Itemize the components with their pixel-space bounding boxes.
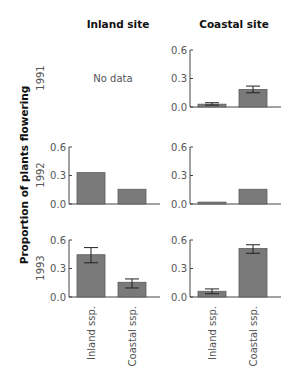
panels: 0.00.30.60.00.30.60.00.30.60.00.30.6Inla… [50, 45, 281, 367]
panel-coastal-1991: 0.00.30.6 [171, 45, 281, 113]
y-tick-label: 0.6 [50, 235, 66, 246]
y-tick-label: 0.3 [171, 263, 187, 274]
y-tick-label: 0.0 [171, 292, 187, 303]
row-label-1991: 1991 [35, 65, 46, 90]
bar [118, 189, 146, 204]
row-label-1993: 1993 [35, 255, 46, 280]
panel-inland-1993: 0.00.30.6Inland ssp.Coastal ssp. [50, 235, 160, 367]
bar [198, 202, 226, 204]
y-tick-label: 0.0 [171, 199, 187, 210]
y-tick-label: 0.0 [171, 102, 187, 113]
y-tick-label: 0.0 [50, 292, 66, 303]
category-label: Inland ssp. [207, 306, 218, 360]
panel-coastal-1992: 0.00.30.6 [171, 142, 281, 210]
y-tick-label: 0.3 [50, 170, 66, 181]
category-label: Coastal ssp. [248, 306, 259, 366]
y-tick-label: 0.0 [50, 199, 66, 210]
panel-coastal-1993: 0.00.30.6Inland ssp.Coastal ssp. [171, 235, 281, 367]
y-tick-label: 0.6 [171, 45, 187, 56]
panel-inland-1992: 0.00.30.6 [50, 142, 160, 210]
y-tick-label: 0.3 [171, 73, 187, 84]
y-tick-label: 0.6 [50, 142, 66, 153]
bar [239, 189, 267, 204]
flowering-proportion-chart: Inland site Coastal site Proportion of p… [0, 0, 289, 370]
column-title-inland: Inland site [87, 18, 150, 30]
category-label: Inland ssp. [86, 306, 97, 360]
y-tick-label: 0.6 [171, 142, 187, 153]
bar [239, 249, 267, 297]
y-axis-label: Proportion of plants flowering [18, 86, 30, 265]
no-data-label: No data [93, 73, 132, 84]
row-label-1992: 1992 [35, 162, 46, 187]
column-title-coastal: Coastal site [199, 18, 269, 30]
y-tick-label: 0.3 [50, 263, 66, 274]
y-tick-label: 0.6 [171, 235, 187, 246]
category-label: Coastal ssp. [127, 306, 138, 366]
bar [77, 173, 105, 204]
y-tick-label: 0.3 [171, 170, 187, 181]
